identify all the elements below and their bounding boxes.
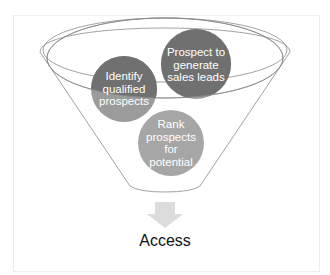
- label-line: Rank: [141, 118, 201, 131]
- label-line: potential: [141, 156, 201, 169]
- label-line: prospects: [94, 95, 154, 108]
- label-line: sales leads: [161, 71, 231, 84]
- label-line: generate: [161, 59, 231, 72]
- label-line: Prospect to: [161, 46, 231, 59]
- label-line: Identify: [94, 70, 154, 83]
- output-label: Access: [0, 232, 330, 250]
- stage-label-identify: Identify qualified prospects: [94, 70, 154, 108]
- stage-label-prospect: Prospect to generate sales leads: [161, 46, 231, 84]
- stage-label-rank: Rank prospects for potential: [141, 118, 201, 168]
- down-arrow-icon: [147, 202, 183, 228]
- label-line: prospects: [141, 131, 201, 144]
- label-line: qualified: [94, 83, 154, 96]
- label-line: for: [141, 143, 201, 156]
